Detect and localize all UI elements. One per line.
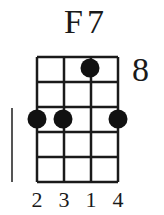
finger-numbers: 2 3 1 4	[0, 188, 164, 212]
finger-number: 2	[27, 188, 47, 212]
finger-dot	[81, 59, 100, 78]
finger-dot	[109, 110, 128, 129]
finger-number: 4	[108, 188, 128, 212]
finger-number: 1	[81, 188, 101, 212]
fretboard-grid	[0, 0, 164, 215]
finger-dot	[28, 110, 47, 129]
finger-dot	[54, 110, 73, 129]
finger-number: 3	[54, 188, 74, 212]
